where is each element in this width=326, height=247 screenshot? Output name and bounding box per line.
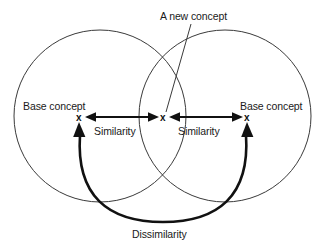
- right-concept-x-marker: x: [244, 113, 250, 123]
- dissimilarity-arc: [73, 122, 253, 222]
- base-concept-right-label: Base concept: [240, 101, 302, 112]
- diagram-canvas: [0, 0, 326, 247]
- new-concept-leader-line: [166, 24, 191, 112]
- arrow-head-right-east: [232, 112, 243, 122]
- left-concept-x-marker: x: [76, 113, 82, 123]
- arrow-head-left-west: [85, 112, 96, 122]
- similarity-left-label: Similarity: [94, 126, 136, 137]
- arrow-head-left-east: [148, 112, 159, 122]
- arrow-head-dissimilarity-right: [241, 122, 253, 137]
- similarity-right-label: Similarity: [178, 126, 220, 137]
- similarity-arrow-right: [169, 112, 243, 122]
- base-concept-left-label: Base concept: [23, 101, 85, 112]
- arrow-head-dissimilarity-left: [73, 122, 85, 137]
- new-concept-x-marker: x: [160, 113, 166, 123]
- dissimilarity-label: Dissimilarity: [132, 229, 187, 240]
- new-concept-label: A new concept: [160, 11, 227, 22]
- venn-diagram-figure: A new concept Base concept Base concept …: [0, 0, 326, 247]
- similarity-arrow-left: [85, 112, 159, 122]
- arrow-head-right-west: [169, 112, 180, 122]
